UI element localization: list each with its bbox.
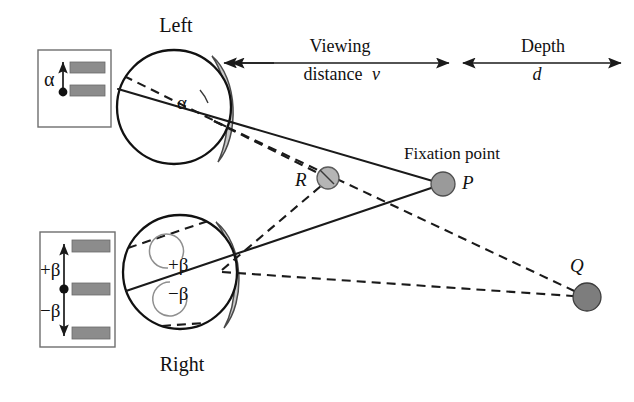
right-eye-beta-minus-label: −β	[168, 283, 188, 304]
viewing-distance-label-line2: distance	[304, 64, 363, 84]
viewing-distance-label-line1: Viewing	[310, 36, 371, 56]
right-eye-beta-plus-label: +β	[168, 254, 188, 275]
inset-fixation-dot	[59, 88, 68, 97]
left-eye-inset-group: α	[38, 50, 111, 127]
inset-bar-bottom	[72, 327, 110, 339]
measurements-group: Viewing distance v Depth d	[224, 36, 621, 84]
figure-canvas: α +β −β	[0, 0, 634, 402]
left-eye-ray-to-q	[214, 121, 587, 297]
right-eye-title: Right	[160, 353, 205, 376]
viewing-distance-symbol: v	[372, 64, 380, 84]
left-eye-title: Left	[159, 14, 193, 36]
inset-bar-top	[72, 240, 110, 252]
inset-beta-plus-label: +β	[40, 259, 60, 280]
point-r-label: R	[294, 169, 307, 190]
inset-bar-middle	[72, 283, 110, 295]
inset-beta-minus-label: −β	[40, 300, 60, 321]
left-eye-ball	[117, 50, 231, 164]
optical-geometry-diagram: α +β −β	[0, 0, 634, 402]
right-eye-group: +β −β Right	[123, 180, 590, 376]
fixation-point-label: Fixation point	[404, 144, 500, 163]
right-eye-ray-to-r	[222, 180, 328, 270]
point-q-label: Q	[570, 255, 584, 276]
inset-bottom-bar	[70, 85, 105, 96]
right-eye-inset-group: +β −β	[40, 232, 115, 347]
inset-top-bar	[70, 62, 105, 73]
nodes-group: R P Fixation point Q	[294, 144, 601, 311]
inset-fixation-dot-beta	[59, 284, 68, 293]
depth-label: Depth	[521, 36, 565, 56]
point-q-marker	[573, 283, 601, 311]
inset-alpha-label: α	[44, 68, 55, 90]
right-eye-ray-to-q	[222, 272, 587, 297]
point-p-label: P	[461, 172, 474, 193]
depth-symbol: d	[533, 64, 543, 84]
point-p-marker	[431, 172, 455, 196]
left-eye-alpha-label: α	[177, 92, 187, 113]
